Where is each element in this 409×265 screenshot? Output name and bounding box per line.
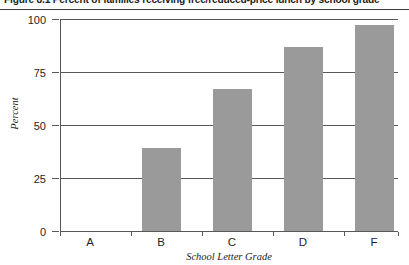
y-tick-label-25: 25 (0, 174, 46, 185)
y-tick-label-50: 50 (0, 121, 46, 132)
y-axis-title: Percent (9, 74, 20, 154)
x-tick-label-A: A (60, 236, 120, 248)
y-tick-mark-50 (52, 125, 59, 126)
y-tick-mark-100 (52, 19, 59, 20)
y-tick-mark-75 (52, 72, 59, 73)
y-tick-label-75: 75 (0, 68, 46, 79)
x-axis-title: School Letter Grade (60, 251, 398, 262)
title-divider (0, 9, 409, 10)
y-tick-mark-0 (52, 231, 59, 232)
y-tick-label-100: 100 (0, 15, 46, 26)
y-tick-label-0: 0 (0, 227, 46, 238)
bar-D (284, 47, 323, 231)
x-tick-label-F: F (344, 236, 404, 248)
bar-B (142, 148, 181, 231)
gridline-75 (60, 72, 398, 73)
plot-area (60, 19, 398, 231)
x-tick-label-B: B (131, 236, 191, 248)
bar-F (355, 25, 394, 231)
bar-C (213, 89, 252, 231)
gridline-100 (60, 19, 398, 20)
x-axis-line (60, 231, 398, 232)
x-tick-label-D: D (273, 236, 333, 248)
figure-title: Figure 8.1 Percent of families receiving… (4, 0, 406, 6)
x-tick-label-C: C (202, 236, 262, 248)
y-tick-mark-25 (52, 178, 59, 179)
